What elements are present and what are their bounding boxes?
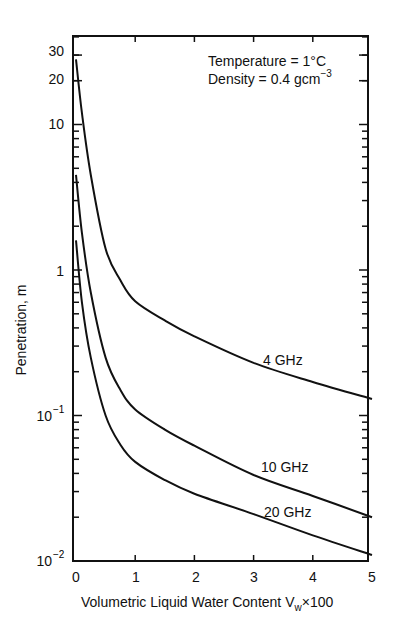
x-tick-1: 1 (132, 569, 140, 585)
series-label-4ghz: 4 GHz (263, 352, 303, 368)
axis-ticks (73, 36, 368, 561)
y-tick-20: 20 (48, 71, 64, 87)
curve-4ghz (76, 59, 372, 398)
density-annotation: Density = 0.4 gcm−3 (208, 68, 332, 87)
x-tick-0: 0 (72, 569, 80, 585)
y-tick-30: 30 (48, 43, 64, 59)
x-tick-4: 4 (309, 569, 317, 585)
y-tick-1: 1 (56, 263, 64, 279)
series-label-10ghz: 10 GHz (261, 459, 308, 475)
y-tick-0.01-exponent: −2 (53, 549, 65, 560)
temperature-annotation: Temperature = 1°C (208, 53, 326, 69)
curve-20ghz (76, 240, 372, 555)
x-tick-3: 3 (250, 569, 258, 585)
x-axis-title: Volumetric Liquid Water Content Vw×100 (81, 594, 333, 613)
series-label-20ghz: 20 GHz (264, 504, 311, 520)
curve-10ghz (76, 175, 372, 517)
x-tick-5: 5 (368, 569, 376, 585)
data-curves (76, 59, 372, 555)
y-tick-0.01: 10 (36, 553, 52, 569)
y-tick-0.1-exponent: −1 (53, 404, 65, 415)
y-tick-0.1: 10 (36, 408, 52, 424)
y-axis-title: Penetration, m (13, 284, 29, 375)
x-tick-2: 2 (192, 569, 200, 585)
plot-frame (73, 36, 368, 561)
y-tick-10: 10 (48, 116, 64, 132)
penetration-chart: 30 20 10 1 10 −1 10 −2 0 1 2 3 4 5 Volum… (0, 0, 394, 636)
